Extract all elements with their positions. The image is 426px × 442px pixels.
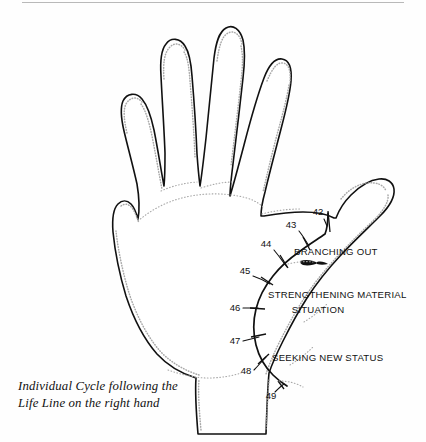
- figure-caption: Individual Cycle following the Life Line…: [18, 378, 233, 412]
- hand-silhouette: [113, 27, 394, 434]
- age-label-47: 47: [230, 335, 240, 346]
- hand-diagram: 42 43 44 45 46 47 48 49 BRANCHING OUT ST…: [0, 0, 426, 442]
- figure-page: 42 43 44 45 46 47 48 49 BRANCHING OUT ST…: [0, 0, 426, 442]
- age-label-49: 49: [266, 390, 276, 401]
- age-label-46: 46: [230, 302, 240, 313]
- label-strengthening-material: STRENGTHENING MATERIAL: [268, 289, 407, 300]
- hand-contour: [113, 27, 394, 434]
- age-label-43: 43: [286, 219, 296, 230]
- caption-line-2: Life Line on the right hand: [18, 395, 233, 412]
- label-situation: SITUATION: [292, 304, 345, 315]
- age-label-44: 44: [261, 238, 271, 249]
- age-label-45: 45: [240, 265, 250, 276]
- label-seeking-new-status: SEEKING NEW STATUS: [272, 352, 383, 363]
- caption-line-1: Individual Cycle following the: [18, 378, 233, 395]
- age-label-48: 48: [241, 365, 251, 376]
- label-branching-out: BRANCHING OUT: [294, 246, 378, 257]
- age-label-42: 42: [313, 206, 323, 217]
